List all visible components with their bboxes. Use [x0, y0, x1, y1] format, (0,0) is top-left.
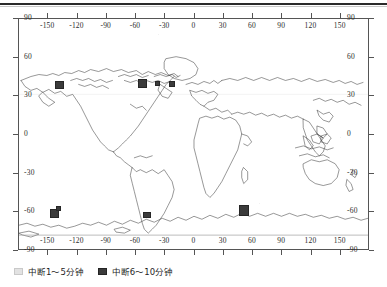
- x-tick-label-bottom: 60: [248, 237, 256, 245]
- y-tick-label-left: 60: [24, 53, 32, 61]
- x-tick-label-top: -30: [159, 22, 170, 30]
- x-tick-label-bottom: 90: [277, 237, 285, 245]
- x-tick-top: [311, 13, 312, 18]
- x-tick-bottom: [223, 250, 224, 255]
- y-tick-label-left: 90: [24, 14, 32, 22]
- y-tick-left: [13, 250, 18, 251]
- x-tick-label-top: -90: [100, 22, 111, 30]
- x-tick-label-bottom: -120: [69, 237, 84, 245]
- x-tick-top: [223, 13, 224, 18]
- y-tick-label-left: 0: [24, 130, 28, 138]
- outage-marker: [239, 205, 249, 216]
- x-tick-label-top: -150: [40, 22, 55, 30]
- x-tick-bottom: [311, 250, 312, 255]
- x-tick-top: [47, 13, 48, 18]
- x-tick-bottom: [340, 250, 341, 255]
- x-tick-label-bottom: -60: [130, 237, 141, 245]
- x-tick-label-top: 60: [248, 22, 256, 30]
- x-tick-label-bottom: -150: [40, 237, 55, 245]
- outage-marker: [56, 206, 61, 211]
- map-plot-area: [19, 19, 368, 249]
- y-tick-label-left: -90: [24, 246, 35, 254]
- y-tick-label-right: -90: [347, 246, 358, 254]
- figure-page: -150-150-120-120-90-90-60-60-30-30003030…: [0, 0, 387, 287]
- x-tick-top: [77, 13, 78, 18]
- y-tick-label-right: 0: [347, 130, 351, 138]
- y-tick-left: [13, 173, 18, 174]
- x-tick-bottom: [77, 250, 78, 255]
- x-tick-label-bottom: 0: [192, 237, 196, 245]
- legend-entry-1: 中断1～5分钟: [14, 265, 84, 277]
- x-tick-label-bottom: 30: [219, 237, 227, 245]
- outage-marker: [55, 81, 64, 89]
- x-tick-top: [340, 13, 341, 18]
- y-tick-right: [369, 57, 374, 58]
- x-tick-top: [281, 13, 282, 18]
- x-tick-label-top: 120: [305, 22, 317, 30]
- page-top-rule: [0, 3, 387, 5]
- dark-square-swatch: [98, 268, 107, 275]
- x-tick-bottom: [164, 250, 165, 255]
- chart-legend: 中断1～5分钟 中断6～10分钟: [14, 262, 187, 280]
- x-tick-label-top: -60: [130, 22, 141, 30]
- light-square-swatch: [14, 268, 23, 275]
- outage-marker: [143, 212, 151, 218]
- y-tick-right: [369, 18, 374, 19]
- y-tick-label-right: 90: [347, 14, 355, 22]
- y-tick-left: [13, 211, 18, 212]
- y-tick-left: [13, 95, 18, 96]
- x-tick-top: [164, 13, 165, 18]
- world-map-figure: [18, 18, 369, 250]
- y-tick-left: [13, 18, 18, 19]
- x-tick-label-top: 90: [277, 22, 285, 30]
- x-tick-top: [252, 13, 253, 18]
- outage-marker: [169, 81, 175, 87]
- y-tick-right: [369, 95, 374, 96]
- y-tick-right: [369, 250, 374, 251]
- y-tick-label-right: 30: [347, 91, 355, 99]
- x-tick-bottom: [252, 250, 253, 255]
- outage-marker: [138, 79, 147, 88]
- x-tick-top: [135, 13, 136, 18]
- x-tick-label-top: 0: [192, 22, 196, 30]
- y-tick-right: [369, 211, 374, 212]
- y-tick-label-right: -30: [347, 169, 358, 177]
- y-tick-label-left: -30: [24, 169, 35, 177]
- x-tick-label-bottom: -30: [159, 237, 170, 245]
- x-tick-bottom: [106, 250, 107, 255]
- x-tick-label-bottom: 120: [305, 237, 317, 245]
- x-tick-bottom: [194, 250, 195, 255]
- legend-entry-2: 中断6～10分钟: [98, 265, 173, 277]
- page-top-rule-secondary: [0, 6, 387, 7]
- y-tick-label-right: 60: [347, 53, 355, 61]
- y-tick-left: [13, 134, 18, 135]
- legend-label-1: 中断1～5分钟: [28, 265, 84, 277]
- x-tick-label-top: -120: [69, 22, 84, 30]
- x-tick-label-bottom: -90: [100, 237, 111, 245]
- y-tick-label-left: -60: [24, 207, 35, 215]
- x-tick-top: [106, 13, 107, 18]
- x-tick-top: [194, 13, 195, 18]
- legend-label-2: 中断6～10分钟: [112, 265, 173, 277]
- world-coastline-map: [19, 19, 368, 249]
- x-tick-label-top: 150: [334, 22, 346, 30]
- x-tick-bottom: [135, 250, 136, 255]
- x-tick-bottom: [47, 250, 48, 255]
- x-tick-bottom: [281, 250, 282, 255]
- y-tick-right: [369, 134, 374, 135]
- y-tick-right: [369, 173, 374, 174]
- x-tick-label-top: 30: [219, 22, 227, 30]
- y-tick-left: [13, 57, 18, 58]
- outage-marker: [155, 81, 160, 86]
- y-tick-label-right: -60: [347, 207, 358, 215]
- y-tick-label-left: 30: [24, 91, 32, 99]
- x-tick-label-bottom: 150: [334, 237, 346, 245]
